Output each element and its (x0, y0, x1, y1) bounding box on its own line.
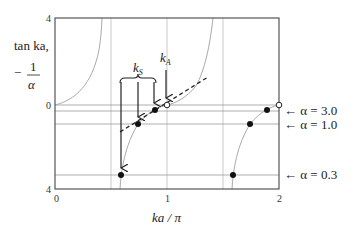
ylabel-denominator: α (28, 77, 36, 92)
markers (118, 102, 282, 178)
marker-filled (264, 107, 270, 113)
marker-open (164, 102, 170, 108)
alpha-1-label: ← α = 1.0 (284, 117, 337, 132)
marker-open (276, 102, 282, 108)
ka-label: kA (160, 50, 171, 67)
marker-filled (152, 107, 158, 113)
ylabel-minus: − (14, 65, 21, 80)
marker-filled (247, 121, 253, 127)
xlabel: ka / π (152, 210, 181, 225)
xtick-2: 2 (277, 193, 282, 204)
ytick-top: 4 (46, 13, 51, 24)
arrows (121, 70, 166, 168)
tan-branch-1 (55, 18, 102, 105)
xtick-1: 1 (165, 193, 170, 204)
ylabel-line1: tan ka, (14, 38, 49, 53)
marker-filled (118, 172, 124, 178)
alpha-3-label: ← α = 3.0 (284, 103, 337, 118)
tan-ka-chart: 4 0 4 0 1 2 tan ka, − 1 α ka / π kS kA ←… (0, 0, 357, 229)
marker-filled (135, 121, 141, 127)
tan-branch-3 (232, 105, 279, 189)
ks-label: kS (133, 60, 143, 77)
marker-filled (230, 172, 236, 178)
alpha-03-label: ← α = 0.3 (284, 167, 337, 182)
ylabel-numerator: 1 (30, 59, 37, 74)
ytick-zero: 0 (46, 100, 51, 111)
xtick-0: 0 (54, 193, 59, 204)
ytick-bottom: 4 (46, 184, 51, 195)
